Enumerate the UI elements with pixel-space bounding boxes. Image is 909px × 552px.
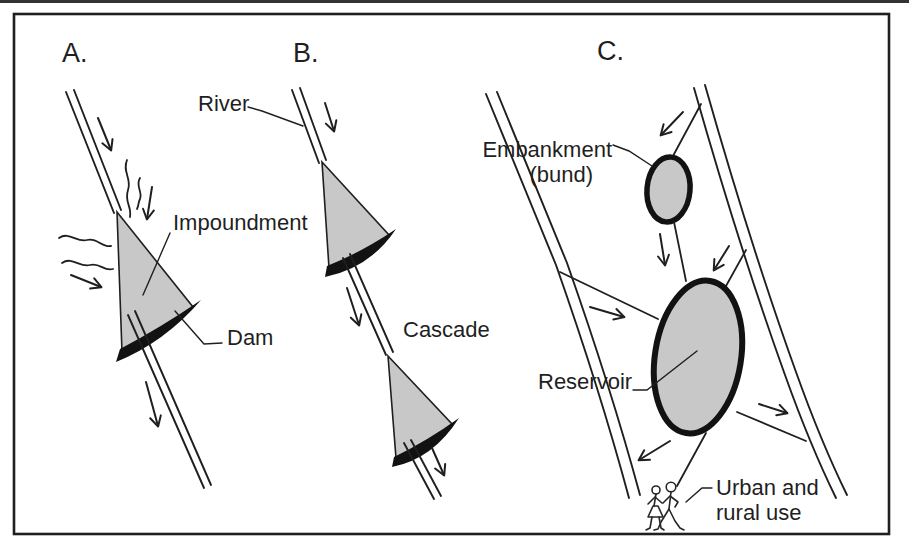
cascade-impoundment-1 <box>322 162 389 268</box>
tributary-stream <box>62 261 113 270</box>
panel-c: C. Embankment (bund) Reservoir <box>482 36 847 530</box>
flow-arrow <box>147 187 152 219</box>
dam-label: Dam <box>227 325 273 350</box>
flow-arrow <box>661 112 683 135</box>
reservoir-label: Reservoir <box>538 369 632 394</box>
flow-arrow <box>146 382 158 426</box>
tributary-streams-left <box>59 236 113 270</box>
flow-arrow <box>660 234 665 265</box>
embankment-leader-line <box>613 145 652 166</box>
tributary-stream <box>59 236 111 246</box>
river-b-upper <box>292 88 326 163</box>
channel-reservoir-to-river <box>737 412 806 441</box>
panel-c-letter: C. <box>597 36 624 66</box>
river-leader-line <box>248 107 303 126</box>
channel-river-to-bund <box>673 104 701 156</box>
embankment-label-line1: Embankment <box>482 137 612 162</box>
cascade-impoundment-2 <box>388 356 452 458</box>
panel-a-letter: A. <box>62 38 88 68</box>
tributary-stream <box>126 160 131 217</box>
use-leader-line <box>686 488 712 502</box>
panel-b: B. River Cascade <box>198 38 490 499</box>
flow-arrow <box>639 441 670 460</box>
tributary-stream <box>137 178 141 209</box>
flow-arrow <box>432 448 444 475</box>
use-label-line2: rural use <box>716 500 802 525</box>
figure-page: A. Impoundment Dam <box>0 0 909 552</box>
river-a-upper <box>66 90 121 213</box>
flow-arrow <box>325 103 334 131</box>
flow-arrow <box>714 246 729 270</box>
use-label-line1: Urban and <box>716 475 819 500</box>
impoundment-label: Impoundment <box>173 210 308 235</box>
embankment-label-line2: (bund) <box>529 162 593 187</box>
tributary-streams-top <box>126 160 141 217</box>
river-label: River <box>198 91 249 116</box>
reservoir <box>643 274 752 440</box>
river-b-middle <box>343 254 393 355</box>
flow-arrow <box>71 275 101 287</box>
flow-arrow <box>98 118 111 150</box>
panel-b-letter: B. <box>293 38 319 68</box>
channel-bund-to-reservoir <box>674 222 686 281</box>
cascade-label: Cascade <box>403 317 490 342</box>
flow-arrow <box>347 288 359 325</box>
flow-arrow <box>759 404 787 413</box>
figure-canvas: A. Impoundment Dam <box>0 0 909 552</box>
panel-a: A. Impoundment Dam <box>59 38 308 488</box>
people-icon <box>646 482 684 530</box>
scan-edge-line <box>0 0 909 3</box>
channel-reservoir-to-use <box>677 433 706 486</box>
flow-arrow <box>590 307 624 317</box>
